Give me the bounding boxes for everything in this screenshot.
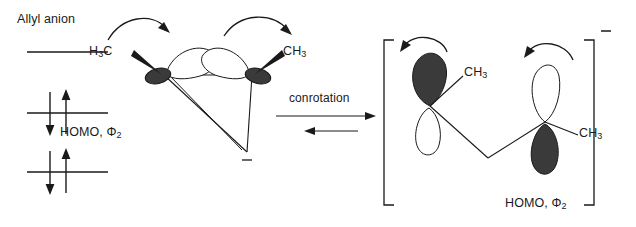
product-left-p-orbital [413,53,447,155]
electron-arrow-down-homo [46,92,55,136]
product-bracket-right [584,40,594,205]
diagram-vector-layer [0,0,636,227]
homo-label-left: HOMO, Φ2 [60,125,122,140]
equilibrium-arrows [276,112,376,135]
reactant-left-methyl-label: H3C [89,44,112,59]
cyclopropyl-anion-structure [108,17,292,160]
right-conrotation-arrow [224,17,292,36]
product-right-methyl-label: CH3 [579,126,602,141]
product-right-p-orbital [531,65,560,174]
methyl-wedge-left [131,50,161,74]
mo-energy-level-bonding [27,148,108,195]
cyclopropane-ring-bonds [164,74,252,152]
reactant-right-methyl-label: CH3 [283,44,306,59]
electron-arrow-up-bonding [62,148,71,193]
conrotation-label: conrotation [289,91,349,105]
allyl-anion-product-structure [400,37,578,174]
methyl-wedge-right [255,50,285,74]
forward-reaction-arrow [276,112,376,120]
allyl-chain-bonds [430,106,545,158]
homo-label-right: HOMO, Φ2 [505,196,567,211]
reaction-scheme-canvas: Allyl anion [0,0,636,227]
reverse-reaction-arrow [304,127,358,135]
product-bracket-left [384,40,394,205]
product-left-methyl-label: CH3 [464,65,487,80]
electron-arrow-down-bonding [46,151,55,195]
terminal-orbital-lobes-upper [166,48,250,79]
left-conrotation-arrow [108,18,170,40]
product-right-rotation-arrow [524,44,573,60]
product-left-rotation-arrow [400,37,447,52]
